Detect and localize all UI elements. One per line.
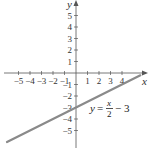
y-tick-label: −2 xyxy=(62,91,72,101)
y-tick-label: 5 xyxy=(68,11,73,21)
y-tick-label: −1 xyxy=(62,80,72,90)
y-tick-label: −4 xyxy=(62,114,72,124)
x-tick-label: −5 xyxy=(14,76,24,86)
x-tick-label: 3 xyxy=(108,76,113,86)
eq-denominator: 2 xyxy=(107,109,112,119)
eq-minus-3: − 3 xyxy=(115,102,130,114)
x-tick-label: 2 xyxy=(97,76,102,86)
y-tick-label: 4 xyxy=(68,22,73,32)
equation-label: y = x 2 − 3 xyxy=(89,98,130,119)
x-tick-label: 1 xyxy=(85,76,90,86)
eq-equals: = xyxy=(97,102,103,114)
y-axis-label: y xyxy=(66,0,72,10)
y-tick-label: 1 xyxy=(68,57,73,67)
y-tick-label: 2 xyxy=(68,45,73,55)
x-tick-label: −3 xyxy=(37,76,47,86)
x-tick-label: −2 xyxy=(48,76,58,86)
x-axis-label: x xyxy=(141,75,147,87)
y-tick-label: −5 xyxy=(62,126,72,136)
eq-y: y xyxy=(89,102,95,114)
y-tick-label: 3 xyxy=(68,34,73,44)
y-axis-arrow-icon xyxy=(74,0,79,6)
x-tick-label: −4 xyxy=(25,76,35,86)
eq-numerator: x xyxy=(106,98,111,108)
graph: −5−4−3−2−1123454321−1−2−3−4−5 x y y = x … xyxy=(0,0,151,150)
